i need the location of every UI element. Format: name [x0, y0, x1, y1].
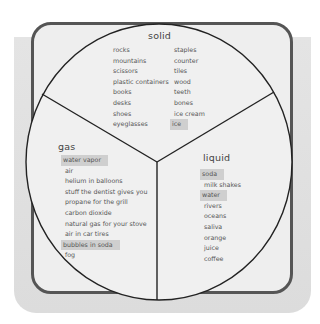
liquid-column: soda milk shakes water rivers oceans sal…: [202, 169, 243, 264]
solid-item: eyeglasses: [111, 119, 150, 130]
solid-item: mountains: [111, 56, 148, 67]
solid-item: shoes: [111, 109, 133, 120]
gas-column: water vapor air helium in balloons stuff…: [63, 155, 149, 261]
gas-item: carbon dioxide: [63, 208, 114, 219]
gas-item: helium in balloons: [63, 176, 125, 187]
gas-item: natural gas for your stove: [63, 219, 149, 230]
solid-item: scissors: [111, 66, 140, 77]
liquid-item-highlighted: water: [200, 190, 227, 201]
liquid-item: orange: [202, 233, 228, 244]
solid-item: plastic containers: [111, 77, 171, 88]
liquid-item: juice: [202, 243, 221, 254]
gas-item: air: [63, 166, 75, 177]
solid-column-1: rocks mountains scissors plastic contain…: [111, 45, 171, 130]
gas-item: propane for the grill: [63, 197, 130, 208]
solid-item: books: [111, 87, 134, 98]
gas-item-highlighted: bubbles in soda: [61, 240, 120, 251]
gas-item: stuff the dentist gives you: [63, 187, 149, 198]
solid-item: bones: [172, 98, 195, 109]
solid-item: ice cream: [172, 109, 207, 120]
solid-item: staples: [172, 45, 199, 56]
liquid-item: coffee: [202, 254, 225, 265]
solid-item: desks: [111, 98, 133, 109]
gas-item-highlighted: water vapor: [61, 155, 108, 166]
solid-item: tiles: [172, 66, 189, 77]
liquid-item-highlighted: soda: [200, 169, 224, 180]
gas-heading: gas: [58, 141, 75, 152]
solid-item: teeth: [172, 87, 193, 98]
gas-item: air in car tires: [63, 229, 111, 240]
solid-item: counter: [172, 56, 200, 67]
solid-column-2: staples counter tiles wood teeth bones i…: [172, 45, 207, 130]
liquid-item: milk shakes: [202, 180, 243, 191]
liquid-item: saliva: [202, 222, 224, 233]
liquid-item: oceans: [202, 211, 228, 222]
solid-item-highlighted: ice: [170, 119, 188, 130]
liquid-item: rivers: [202, 201, 224, 212]
liquid-heading: liquid: [203, 152, 230, 163]
solid-item: rocks: [111, 45, 132, 56]
solid-heading: solid: [148, 30, 171, 41]
gas-item: fog: [63, 250, 77, 261]
solid-item: wood: [172, 77, 193, 88]
